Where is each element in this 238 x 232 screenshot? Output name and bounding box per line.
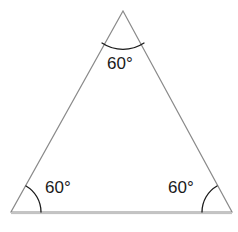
geometry-figure: 60° 60° 60° — [0, 0, 238, 232]
angle-label-bottom-right: 60° — [168, 179, 194, 196]
angle-label-apex: 60° — [107, 55, 133, 72]
angle-label-bottom-left: 60° — [45, 179, 71, 196]
triangle-diagram — [0, 0, 238, 232]
